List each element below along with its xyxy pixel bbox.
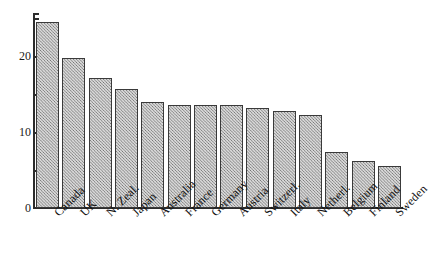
bar-canada — [36, 22, 59, 208]
y-axis-tick-labels: 20 10 0 — [0, 0, 31, 277]
plot-area — [34, 10, 402, 208]
y-tick-label-10: 10 — [3, 126, 31, 138]
x-axis-category-labels: CanadaUKN. Zeal.JapanAustraliaFranceGerm… — [34, 210, 414, 277]
bars-layer — [34, 10, 402, 208]
y-tick-label-20: 20 — [3, 50, 31, 62]
bar-n-zeal — [89, 78, 112, 208]
y-tick-label-0: 0 — [3, 202, 31, 214]
